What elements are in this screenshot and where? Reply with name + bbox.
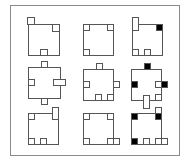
empty-small-square <box>28 18 35 25</box>
filled-small-square <box>145 64 151 70</box>
empty-small-square <box>156 82 162 88</box>
filled-small-square <box>162 82 168 88</box>
cell-r0c0 <box>28 18 60 56</box>
filled-small-square <box>132 114 138 120</box>
empty-small-square <box>108 95 114 101</box>
cell-r1c1 <box>84 64 120 101</box>
empty-small-square <box>133 18 139 31</box>
puzzle-canvas <box>0 0 188 164</box>
empty-small-square <box>29 114 35 120</box>
empty-small-square <box>84 139 90 145</box>
empty-small-square <box>41 50 48 56</box>
filled-small-square <box>157 25 163 31</box>
empty-small-square <box>84 82 90 88</box>
empty-small-square <box>156 108 162 114</box>
empty-small-square <box>84 25 90 31</box>
empty-small-square <box>84 50 90 56</box>
empty-small-square <box>54 80 66 86</box>
empty-small-square <box>41 139 47 145</box>
filled-small-square <box>132 82 138 88</box>
cell-group <box>28 18 168 145</box>
empty-small-square <box>114 139 120 145</box>
empty-small-square <box>144 96 150 109</box>
cell-r2c1 <box>84 114 120 145</box>
empty-small-square <box>108 114 114 120</box>
empty-small-square <box>53 108 59 120</box>
filled-small-square <box>156 114 162 120</box>
empty-small-square <box>108 25 114 31</box>
empty-small-square <box>42 62 48 68</box>
cell-r0c1 <box>84 25 114 56</box>
empty-small-square <box>96 95 102 101</box>
empty-small-square <box>29 80 35 86</box>
filled-small-square <box>132 139 138 145</box>
outer-frame <box>11 6 180 156</box>
empty-small-square <box>84 114 90 120</box>
empty-small-square <box>53 25 60 32</box>
empty-small-square <box>156 139 162 145</box>
cell-r1c2 <box>132 64 168 109</box>
empty-small-square <box>145 50 151 56</box>
empty-small-square <box>97 64 103 70</box>
cell-r2c2 <box>132 108 168 145</box>
empty-small-square <box>114 82 120 88</box>
cell-r2c0 <box>29 108 59 145</box>
pattern-grid <box>0 0 188 164</box>
empty-small-square <box>29 139 35 145</box>
cell-r0c2 <box>133 18 163 56</box>
empty-small-square <box>108 139 114 145</box>
empty-small-square <box>133 50 139 56</box>
empty-small-square <box>42 99 48 105</box>
cell-r1c0 <box>29 62 66 105</box>
empty-small-square <box>144 139 150 145</box>
empty-small-square <box>162 139 168 145</box>
empty-small-square <box>156 95 162 101</box>
